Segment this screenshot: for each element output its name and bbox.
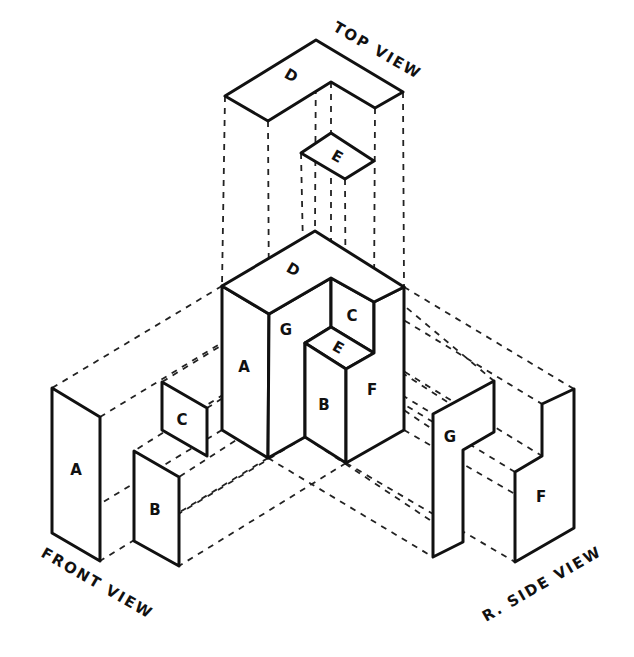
side-view-label-g: G <box>444 428 456 446</box>
front-view-label-c: C <box>176 411 187 429</box>
side-view: G F R. SIDE VIEW <box>433 381 605 625</box>
object-label-c: C <box>346 307 357 325</box>
side-view-label-f: F <box>536 488 546 506</box>
side-view-face-g <box>433 381 494 557</box>
object-label-g: G <box>280 321 292 339</box>
side-view-face-f <box>515 389 574 562</box>
top-view: D E TOP VIEW <box>225 18 425 179</box>
side-view-title: R. SIDE VIEW <box>479 542 605 625</box>
projection-diagram: D E TOP VIEW A G C E B F D A C B FRONT V… <box>0 0 634 657</box>
front-view: A C B FRONT VIEW <box>38 382 207 623</box>
isometric-object: A G C E B F D <box>222 231 404 463</box>
object-label-b: B <box>318 396 329 414</box>
front-view-label-b: B <box>149 501 160 519</box>
object-label-f: F <box>367 381 377 399</box>
object-label-a: A <box>238 358 250 376</box>
front-view-label-a: A <box>70 461 82 479</box>
